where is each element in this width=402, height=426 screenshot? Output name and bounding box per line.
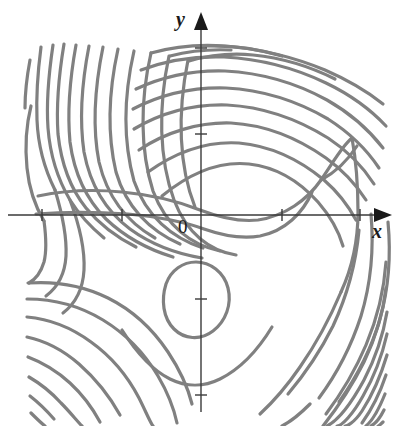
contour-closed-oval [163, 262, 229, 338]
contour-family-lower-right [260, 214, 389, 426]
contour-curves [25, 44, 389, 426]
contour-family-upper-right [133, 45, 386, 246]
contour-plot-figure: y x 0 [0, 0, 402, 426]
contour-family-lower-left [27, 283, 192, 426]
y-axis-label: y [176, 8, 185, 31]
y-axis-arrowhead [194, 12, 208, 30]
contour-family-upper-left [25, 44, 236, 258]
axis-arrowheads [194, 12, 392, 222]
origin-label: 0 [178, 216, 188, 238]
x-axis-label: x [372, 220, 382, 243]
contour-plot-canvas [0, 0, 402, 426]
